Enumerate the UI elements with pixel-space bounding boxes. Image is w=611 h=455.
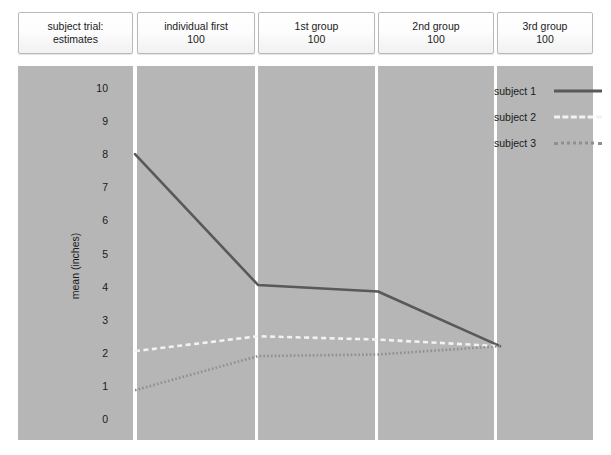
header-box-subject-trial-line-1: subject trial: [47, 20, 103, 34]
legend-line-sample [554, 90, 602, 93]
header-box-second-group[interactable]: 2nd group100 [378, 12, 494, 54]
plot-panel-4 [378, 66, 494, 440]
y-tick-label-5: 5 [86, 248, 108, 260]
chart-container: subject trial:estimatesindividual first1… [0, 0, 611, 455]
legend-swatch-subject-2-icon [554, 112, 602, 122]
legend-label-subject-3: subject 3 [494, 137, 552, 149]
header-box-third-group-line-2: 100 [536, 33, 554, 47]
header-box-second-group-line-2: 100 [427, 33, 445, 47]
legend-item-subject-1[interactable]: subject 1 [494, 78, 606, 104]
y-tick-label-1: 1 [86, 380, 108, 392]
legend-line-sample [554, 116, 602, 119]
y-tick-label-2: 2 [86, 347, 108, 359]
plot-panel-3 [258, 66, 375, 440]
y-axis-title: mean (inches) [69, 233, 81, 300]
legend-line-sample [554, 142, 602, 145]
header-box-first-group-line-1: 1st group [295, 20, 339, 34]
plot-panel-2 [137, 66, 255, 440]
header-box-third-group-line-1: 3rd group [523, 20, 568, 34]
legend-item-subject-2[interactable]: subject 2 [494, 104, 606, 130]
y-tick-label-9: 9 [86, 115, 108, 127]
header-box-subject-trial-line-2: estimates [53, 33, 98, 47]
header-box-first-group-line-2: 100 [308, 33, 326, 47]
y-tick-label-8: 8 [86, 148, 108, 160]
header-box-subject-trial[interactable]: subject trial:estimates [18, 12, 133, 54]
y-tick-label-4: 4 [86, 281, 108, 293]
legend: subject 1subject 2subject 3 [494, 78, 606, 156]
header-box-third-group[interactable]: 3rd group100 [497, 12, 593, 54]
legend-label-subject-1: subject 1 [494, 85, 552, 97]
legend-swatch-subject-1-icon [554, 86, 602, 96]
header-box-individual-first[interactable]: individual first100 [137, 12, 255, 54]
header-box-individual-first-line-1: individual first [164, 20, 228, 34]
header-box-second-group-line-1: 2nd group [412, 20, 459, 34]
legend-item-subject-3[interactable]: subject 3 [494, 130, 606, 156]
y-tick-label-6: 6 [86, 214, 108, 226]
y-tick-label-10: 10 [86, 82, 108, 94]
header-box-individual-first-line-2: 100 [187, 33, 205, 47]
y-tick-label-3: 3 [86, 314, 108, 326]
legend-swatch-subject-3-icon [554, 138, 602, 148]
legend-label-subject-2: subject 2 [494, 111, 552, 123]
panel-header-strip: subject trial:estimatesindividual first1… [0, 0, 611, 62]
y-tick-label-0: 0 [86, 413, 108, 425]
y-tick-label-7: 7 [86, 181, 108, 193]
header-box-first-group[interactable]: 1st group100 [258, 12, 375, 54]
